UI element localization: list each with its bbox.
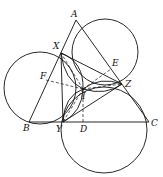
- label-Z: Z: [124, 79, 132, 89]
- label-Y: Y: [56, 124, 63, 134]
- circle-CYZ: [61, 87, 147, 173]
- label-A: A: [70, 9, 78, 19]
- label-F: F: [39, 71, 47, 81]
- label-X: X: [52, 41, 60, 51]
- label-I: I: [81, 91, 86, 101]
- geometry-diagram: A X E Z F I B Y D C: [0, 0, 163, 177]
- side-AB: [29, 20, 76, 122]
- label-E: E: [111, 58, 119, 68]
- label-C: C: [151, 118, 158, 128]
- label-B: B: [22, 123, 30, 133]
- dashed-IE: [83, 69, 111, 89]
- label-D: D: [79, 124, 87, 134]
- circle-BXY: [4, 52, 76, 124]
- dashed-IF: [46, 80, 83, 89]
